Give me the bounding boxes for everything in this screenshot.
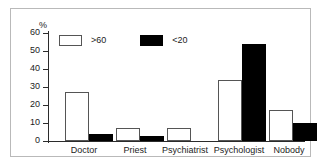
y-tick: 50 — [43, 51, 48, 52]
bar-nobody-low — [293, 123, 317, 141]
bar-priest-low — [140, 136, 164, 141]
y-tick-label: 40 — [30, 63, 40, 74]
x-label-psychologist: Psychologist — [207, 145, 271, 156]
bar-psychologist-high — [218, 80, 242, 141]
y-tick: 30 — [43, 87, 48, 88]
bar-priest-high — [116, 128, 140, 141]
x-label-nobody: Nobody — [266, 145, 312, 156]
bar-psychologist-low — [242, 44, 266, 141]
plot-area — [49, 33, 304, 141]
bar-psychiatrist-high — [167, 128, 191, 141]
bar-nobody-high — [269, 110, 293, 141]
x-label-priest: Priest — [112, 145, 158, 156]
y-tick-label: 50 — [30, 45, 40, 56]
y-tick-label: 60 — [30, 27, 40, 38]
y-tick-label: 10 — [30, 117, 40, 128]
y-axis-unit-label: % — [39, 20, 47, 30]
y-tick-label: 0 — [35, 135, 40, 146]
x-label-psychiatrist: Psychiatrist — [155, 145, 215, 156]
x-axis-line — [48, 141, 305, 142]
bar-doctor-low — [89, 134, 113, 141]
y-tick: 10 — [43, 123, 48, 124]
y-tick: 20 — [43, 105, 48, 106]
y-tick: 60 — [43, 33, 48, 34]
y-tick: 40 — [43, 69, 48, 70]
x-label-doctor: Doctor — [61, 145, 107, 156]
bar-doctor-high — [65, 92, 89, 141]
y-tick-label: 30 — [30, 81, 40, 92]
bar-chart-figure: % 60 50 40 30 20 10 0 >60 <20 — [10, 8, 311, 157]
y-tick: 0 — [43, 141, 48, 142]
y-tick-label: 20 — [30, 99, 40, 110]
